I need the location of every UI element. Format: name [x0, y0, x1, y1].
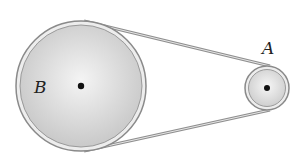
belt-pulley-diagram: B A — [0, 0, 307, 165]
pulley-a: A — [245, 38, 289, 110]
pulley-b: B — [16, 21, 146, 151]
hub-a-icon — [264, 85, 270, 91]
label-b: B — [33, 77, 47, 97]
hub-b-icon — [78, 83, 84, 89]
label-a: A — [260, 38, 274, 58]
